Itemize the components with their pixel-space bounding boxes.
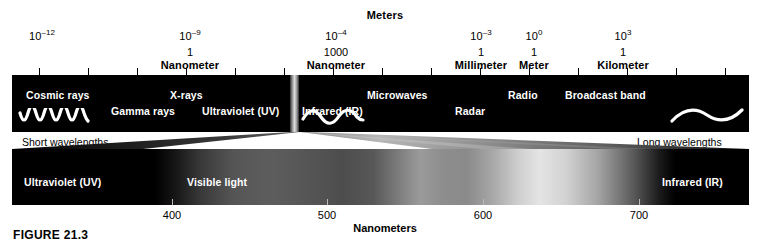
top-tick-label-2: 10–4: [325, 28, 346, 42]
exponent-base: 10: [470, 30, 482, 42]
bottom-tick-mark: [639, 199, 640, 205]
top-tick-mark: [382, 68, 383, 75]
top-tick-mark: [88, 68, 89, 75]
exponent-value: –4: [338, 28, 347, 37]
bottom-axis-title: Nanometers: [353, 222, 417, 234]
top-tick-mark: [333, 68, 334, 75]
exponent-base: 10: [526, 30, 538, 42]
visible-band-label-infrared: Infrared (IR): [662, 176, 723, 188]
top-unit-number-1: 1: [187, 46, 193, 58]
em-region-label-cosmic-rays: Cosmic rays: [26, 89, 90, 101]
top-tick-mark: [235, 68, 236, 75]
exponent-value: 3: [627, 28, 631, 37]
fan-shape: [12, 132, 749, 149]
bottom-tick-mark: [327, 199, 328, 205]
top-unit-name-5: Kilometer: [597, 59, 649, 71]
bottom-tick-mark: [483, 199, 484, 205]
visible-band-label-visible-light: Visible light: [187, 176, 247, 188]
top-tick-label-1: 10–9: [179, 28, 200, 42]
em-region-label-radar: Radar: [455, 105, 485, 117]
long-wavelength-squiggle-icon: [669, 105, 745, 127]
top-tick-mark: [480, 68, 481, 75]
visible-light-band: Ultraviolet (UV) Visible light Infrared …: [12, 149, 749, 205]
top-tick-mark: [39, 68, 40, 75]
top-tick-mark: [284, 68, 285, 75]
bottom-tick-label-400: 400: [163, 209, 181, 221]
em-region-label-ultraviolet: Ultraviolet (UV): [202, 105, 279, 117]
exponent-base: 10: [325, 30, 337, 42]
exponent-base: 10: [179, 30, 191, 42]
electromagnetic-spectrum-figure: Meters 10–12 10–9 10–4 10–3 100 103 1 Na…: [0, 0, 759, 248]
short-wavelength-squiggle-icon: [18, 108, 90, 128]
spectrum-expansion-fan: [12, 132, 749, 149]
top-tick-mark: [578, 68, 579, 75]
top-tick-mark: [725, 68, 726, 75]
bottom-tick-label-600: 600: [474, 209, 492, 221]
top-tick-label-3: 10–3: [470, 28, 491, 42]
top-unit-name-1: Nanometer: [161, 59, 219, 71]
em-region-label-microwaves: Microwaves: [367, 89, 428, 101]
medium-wavelength-squiggle-icon: [300, 108, 366, 128]
top-unit-number-4: 1: [531, 46, 537, 58]
em-region-label-x-rays: X-rays: [170, 89, 203, 101]
visible-light-slit: [290, 75, 299, 132]
top-tick-mark: [186, 68, 187, 75]
top-tick-mark: [627, 68, 628, 75]
em-region-label-radio: Radio: [508, 89, 538, 101]
top-unit-number-2: 1000: [324, 46, 348, 58]
top-tick-label-0: 10–12: [29, 28, 55, 42]
top-tick-label-4: 100: [526, 28, 543, 42]
em-region-label-broadcast: Broadcast band: [565, 89, 646, 101]
top-unit-name-4: Meter: [519, 59, 549, 71]
em-region-label-gamma-rays: Gamma rays: [111, 105, 175, 117]
top-axis-title: Meters: [367, 9, 404, 21]
exponent-base: 10: [615, 30, 627, 42]
top-unit-name-2: Nanometer: [307, 59, 365, 71]
bottom-tick-label-500: 500: [318, 209, 336, 221]
exponent-value: –12: [42, 28, 55, 37]
exponent-value: –3: [483, 28, 492, 37]
top-unit-number-3: 1: [478, 46, 484, 58]
top-tick-label-5: 103: [615, 28, 632, 42]
top-tick-mark: [529, 68, 530, 75]
figure-caption: FIGURE 21.3: [13, 228, 88, 242]
bottom-tick-label-700: 700: [630, 209, 648, 221]
top-unit-name-3: Millimeter: [455, 59, 507, 71]
top-unit-number-5: 1: [620, 46, 626, 58]
exponent-base: 10: [29, 30, 41, 42]
bottom-tick-mark: [172, 199, 173, 205]
top-tick-mark: [137, 68, 138, 75]
top-tick-mark: [676, 68, 677, 75]
visible-band-label-ultraviolet: Ultraviolet (UV): [24, 176, 101, 188]
top-tick-mark: [431, 68, 432, 75]
exponent-value: 0: [538, 28, 542, 37]
em-spectrum-band: Cosmic rays Gamma rays X-rays Ultraviole…: [12, 75, 749, 132]
exponent-value: –9: [192, 28, 201, 37]
